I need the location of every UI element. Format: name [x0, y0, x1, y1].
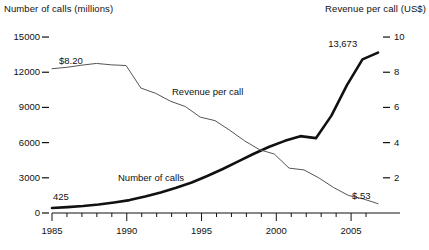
series-label-revenue-per-call: Revenue per call	[172, 86, 243, 97]
series-label-number-of-calls: Number of calls	[118, 172, 184, 183]
y-left-tick-label-0: 0	[0, 207, 40, 218]
y-right-tick-label-8: 8	[394, 66, 420, 77]
y-left-tick-label-9000: 9000	[0, 101, 40, 112]
y-left-tick-label-12000: 12000	[0, 66, 40, 77]
end-calls-annotation: 13,673	[328, 38, 357, 49]
start-revenue-annotation: $8.20	[59, 55, 83, 66]
x-tick-label-1995: 1995	[182, 225, 222, 236]
chart-container: Number of calls (millions) Revenue per c…	[0, 0, 429, 250]
y-left-tick-label-15000: 15000	[0, 31, 40, 42]
x-tick-label-1985: 1985	[32, 225, 72, 236]
chart-plot-svg	[0, 0, 429, 250]
y-left-tick-label-6000: 6000	[0, 137, 40, 148]
x-tick-label-1990: 1990	[107, 225, 147, 236]
y-left-tick-label-3000: 3000	[0, 172, 40, 183]
y-right-tick-label-6: 6	[394, 101, 420, 112]
x-tick-label-2005: 2005	[331, 225, 371, 236]
y-right-tick-label-10: 10	[394, 31, 420, 42]
start-calls-annotation: 425	[53, 191, 69, 202]
y-right-tick-label-4: 4	[394, 137, 420, 148]
x-tick-label-2000: 2000	[256, 225, 296, 236]
y-right-tick-label-2: 2	[394, 172, 420, 183]
end-revenue-annotation: $.53	[352, 190, 371, 201]
